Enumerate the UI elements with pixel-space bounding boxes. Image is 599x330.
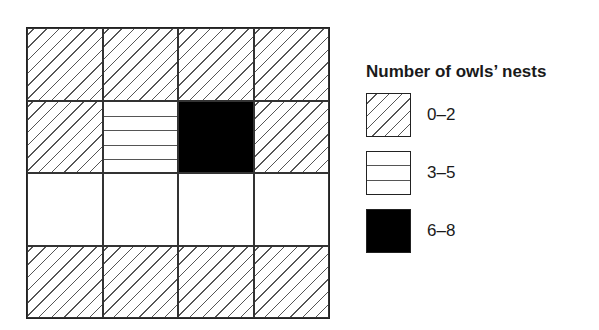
grid-cell-r2-c1 [27, 101, 103, 174]
grid-cell-r2-c4 [254, 101, 330, 174]
legend-label: 6–8 [427, 221, 455, 241]
grid-cell-r4-c3 [178, 246, 254, 319]
diagonal-hatch-swatch-icon [366, 93, 411, 137]
nest-grid-map [26, 27, 330, 319]
legend-item-3-5: 3–5 [366, 150, 546, 195]
grid-cell-r2-c2 [103, 101, 179, 174]
solid-black-swatch-icon [366, 209, 411, 253]
horizontal-lines-swatch-icon [366, 151, 411, 195]
legend-item-6-8: 6–8 [366, 208, 546, 253]
grid-cell-r3-c3 [178, 173, 254, 246]
legend-title: Number of owls’ nests [366, 62, 546, 82]
grid-cell-r3-c4 [254, 173, 330, 246]
grid-cell-r2-c3 [178, 101, 254, 174]
legend: Number of owls’ nests 0–2 3–5 6–8 [366, 62, 546, 266]
grid-cell-r1-c4 [254, 28, 330, 101]
grid-cell-r1-c3 [178, 28, 254, 101]
legend-label: 3–5 [427, 163, 455, 183]
grid-cell-r1-c1 [27, 28, 103, 101]
grid-cell-r3-c2 [103, 173, 179, 246]
grid-cell-r3-c1 [27, 173, 103, 246]
grid-cell-r4-c1 [27, 246, 103, 319]
grid-cell-r1-c2 [103, 28, 179, 101]
grid-cell-r4-c2 [103, 246, 179, 319]
legend-label: 0–2 [427, 105, 455, 125]
legend-item-0-2: 0–2 [366, 92, 546, 137]
grid-cell-r4-c4 [254, 246, 330, 319]
